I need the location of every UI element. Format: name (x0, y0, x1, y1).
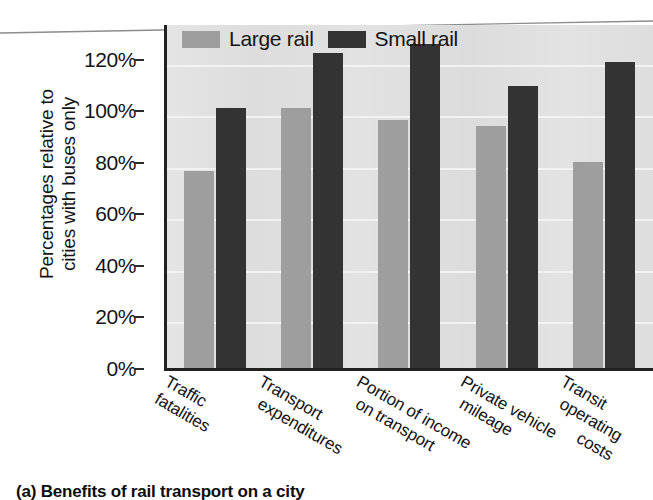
legend-entry-large-rail: Large rail (182, 27, 314, 51)
figure-caption: (a) Benefits of rail transport on a city (16, 482, 653, 500)
y-tick-mark-0 (135, 368, 144, 370)
bar-small-rail (508, 86, 538, 369)
y-tick-mark-60 (135, 213, 144, 215)
bar-small-rail (410, 44, 440, 369)
y-tick-label-20: 20% (95, 305, 136, 329)
bar-group (167, 25, 264, 369)
bar-group (361, 25, 458, 369)
bar-small-rail (313, 53, 343, 369)
bar-large-rail (378, 120, 408, 369)
legend-label-small-rail: Small rail (375, 27, 458, 51)
y-axis-line (164, 25, 167, 371)
x-category-label-portion-of-income-on-transport: Portion of income on transport (343, 372, 475, 472)
y-axis-tick-labels: 0% 20% 40% 60% 80% 100% 120% (52, 46, 144, 376)
y-tick-mark-80 (135, 162, 144, 164)
bar-group (459, 25, 556, 369)
x-axis-line (164, 368, 653, 371)
legend-swatch-small-rail-icon (328, 31, 366, 48)
bar-group (556, 25, 653, 369)
y-tick-label-60: 60% (95, 202, 136, 226)
x-category-label-transport-expenditures: Transport expenditures (245, 372, 356, 460)
y-tick-mark-120 (135, 59, 144, 61)
legend-entry-small-rail: Small rail (328, 27, 458, 51)
y-tick-label-0: 0% (106, 357, 136, 381)
bar-group (264, 25, 361, 369)
legend: Large rail Small rail (182, 27, 458, 51)
bar-large-rail (476, 126, 506, 369)
legend-swatch-large-rail-icon (182, 31, 220, 48)
y-tick-label-100: 100% (84, 99, 136, 123)
bar-large-rail (281, 108, 311, 369)
x-category-label-transit-operating-costs: Transit operating costs (536, 372, 636, 465)
legend-label-large-rail: Large rail (229, 27, 314, 51)
bar-small-rail (605, 62, 635, 369)
y-tick-label-120: 120% (84, 48, 136, 72)
y-tick-mark-40 (135, 265, 144, 267)
y-tick-label-80: 80% (95, 151, 136, 175)
plot-area (167, 25, 653, 369)
bar-chart-figure: Percentages relative to cities with buse… (0, 0, 653, 500)
bar-small-rail (216, 108, 246, 369)
x-axis-category-labels: Traffic fatalities Transport expenditure… (167, 372, 653, 482)
x-category-label-traffic-fatalities: Traffic fatalities (151, 372, 224, 438)
y-tick-mark-100 (135, 110, 144, 112)
bar-large-rail (184, 171, 214, 369)
y-tick-label-40: 40% (95, 254, 136, 278)
y-tick-mark-20 (135, 316, 144, 318)
bar-large-rail (573, 162, 603, 369)
